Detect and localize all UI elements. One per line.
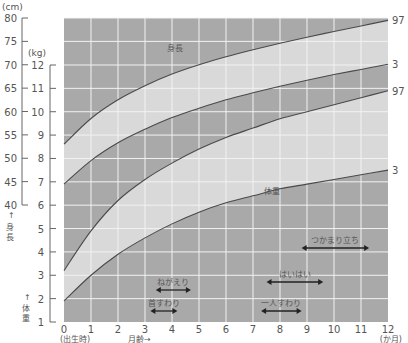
kg-tick-label: 9 [38,130,44,141]
milestone-label: ねがえり [157,277,189,287]
milestone-label: 首すわり [148,298,180,308]
kg-unit: (kg) [28,48,46,58]
weight-axis-label: 重 [22,313,30,323]
growth-chart: 404550556065707580(cm)123456789101112(kg… [0,0,408,343]
month-tick-label: 8 [277,324,283,335]
month-tick-label: 0 [61,324,67,335]
plot-area [64,18,388,322]
kg-tick-label: 10 [31,107,44,118]
month-tick-label: 11 [355,324,368,335]
cm-tick-label: 55 [4,130,17,141]
cm-tick-label: 40 [4,200,17,211]
month-tick-label: 2 [115,324,121,335]
height-axis-label: 長 [6,233,14,242]
kg-tick-label: 6 [38,200,44,211]
percentile-label: 97 [392,86,405,97]
milestone: ねがえり [156,277,191,293]
cm-tick-label: 50 [4,153,17,164]
month-tick-label: 4 [169,324,175,335]
month-tick-label: 1 [88,324,94,335]
month-tick-label: 6 [223,324,229,335]
milestone: 首すわり [148,298,180,314]
milestone-label: 一人すわり [261,299,301,308]
kg-tick-label: 1 [38,317,44,328]
percentile-label: 97 [392,15,405,26]
milestone-label: つかまり立ち [311,235,359,245]
cm-tick-label: 80 [4,13,17,24]
height-region-label: 身長 [167,43,183,53]
cm-tick-label: 75 [4,36,17,47]
month-axis-label: 月齢→ [128,334,151,343]
height-axis-arrow: ↑ [8,211,15,220]
kg-tick-label: 2 [38,294,44,305]
cm-tick-label: 45 [4,177,17,188]
month-unit: (か月) [380,335,402,343]
month-tick-label: 7 [250,324,256,335]
weight-region-label: 体重 [264,186,280,196]
birth-label: (出生時) [60,334,90,343]
kg-tick-label: 4 [38,247,44,258]
kg-tick-label: 12 [31,60,44,71]
cm-unit: (cm) [2,2,23,12]
kg-tick-label: 5 [38,224,44,235]
percentile-label: 3 [392,59,398,70]
weight-axis-label: 体 [22,303,30,313]
month-tick-label: 5 [196,324,202,335]
cm-tick-label: 65 [4,83,17,94]
weight-axis-arrow: ↑ [24,293,31,302]
kg-tick-label: 7 [38,177,44,188]
cm-tick-label: 70 [4,60,17,71]
month-tick-label: 3 [142,324,148,335]
month-tick-label: 10 [328,324,341,335]
percentile-label: 3 [392,165,398,176]
height-axis-label: 身 [6,222,14,232]
milestone-label: はいはい [279,270,311,279]
kg-tick-label: 8 [38,153,44,164]
kg-tick-label: 3 [38,270,44,281]
cm-tick-label: 60 [4,107,17,118]
month-tick-label: 12 [382,324,395,335]
month-tick-label: 9 [304,324,310,335]
milestone: つかまり立ち [302,235,370,251]
kg-tick-label: 11 [31,83,44,94]
